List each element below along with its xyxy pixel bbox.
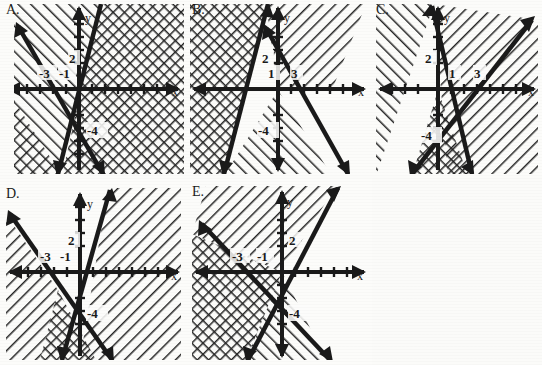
tick-label: 1 xyxy=(449,66,456,81)
answer-choices-figure: -3 -1 2 -4 x y A. xyxy=(0,0,542,365)
panel-c[interactable]: 2 1 3 -4 x y C. xyxy=(372,0,542,176)
panel-d-x-axis-label: x xyxy=(171,269,177,283)
tick-label: -1 xyxy=(60,249,71,264)
panel-d[interactable]: -3 -1 2 -4 x y D. xyxy=(0,178,186,365)
tick-label: -3 xyxy=(39,66,50,81)
panel-e[interactable]: -3 -1 2 -4 x y E. xyxy=(186,178,372,365)
panel-c-x-axis-label: x xyxy=(528,85,534,99)
panel-e-label: E. xyxy=(192,184,204,200)
panel-b-label: B. xyxy=(192,2,205,18)
panel-d-graph: -3 -1 2 -4 x y xyxy=(0,178,186,365)
tick-label: -4 xyxy=(87,306,98,321)
tick-label: -3 xyxy=(40,249,51,264)
tick-label: 1 xyxy=(268,66,275,81)
tick-label: 3 xyxy=(474,66,481,81)
tick-label: -1 xyxy=(59,66,70,81)
panel-b-graph: 2 1 3 -4 x y xyxy=(186,0,372,176)
tick-label: 2 xyxy=(69,51,76,66)
tick-label: 2 xyxy=(68,233,75,248)
tick-label: -4 xyxy=(289,306,300,321)
tick-label: -4 xyxy=(87,123,98,138)
panel-e-x-axis-label: x xyxy=(357,269,363,283)
panel-b-x-axis-label: x xyxy=(358,85,364,99)
panel-d-label: D. xyxy=(6,186,20,202)
panel-e-y-axis-label: y xyxy=(287,195,293,209)
tick-label: -4 xyxy=(258,123,269,138)
panel-c-graph: 2 1 3 -4 x y xyxy=(372,0,542,176)
panel-a-label: A. xyxy=(6,2,20,18)
panel-e-graph: -3 -1 2 -4 x y xyxy=(186,178,372,365)
tick-label: 2 xyxy=(289,233,296,248)
panel-a[interactable]: -3 -1 2 -4 x y A. xyxy=(0,0,186,176)
panel-c-y-axis-label: y xyxy=(444,11,450,25)
tick-label: 2 xyxy=(262,51,269,66)
panel-b[interactable]: 2 1 3 -4 x y B. xyxy=(186,0,372,176)
panel-b-y-axis-label: y xyxy=(284,11,290,25)
tick-label: -1 xyxy=(257,249,268,264)
panel-d-y-axis-label: y xyxy=(87,197,93,211)
panel-c-label: C. xyxy=(376,2,389,18)
panel-a-x-axis-label: x xyxy=(172,85,178,99)
tick-label: -3 xyxy=(232,249,243,264)
tick-label: -4 xyxy=(421,128,432,143)
tick-label: 3 xyxy=(291,66,298,81)
panel-a-y-axis-label: y xyxy=(85,11,91,25)
panel-a-graph: -3 -1 2 -4 x y xyxy=(0,0,186,176)
tick-label: 2 xyxy=(425,51,432,66)
